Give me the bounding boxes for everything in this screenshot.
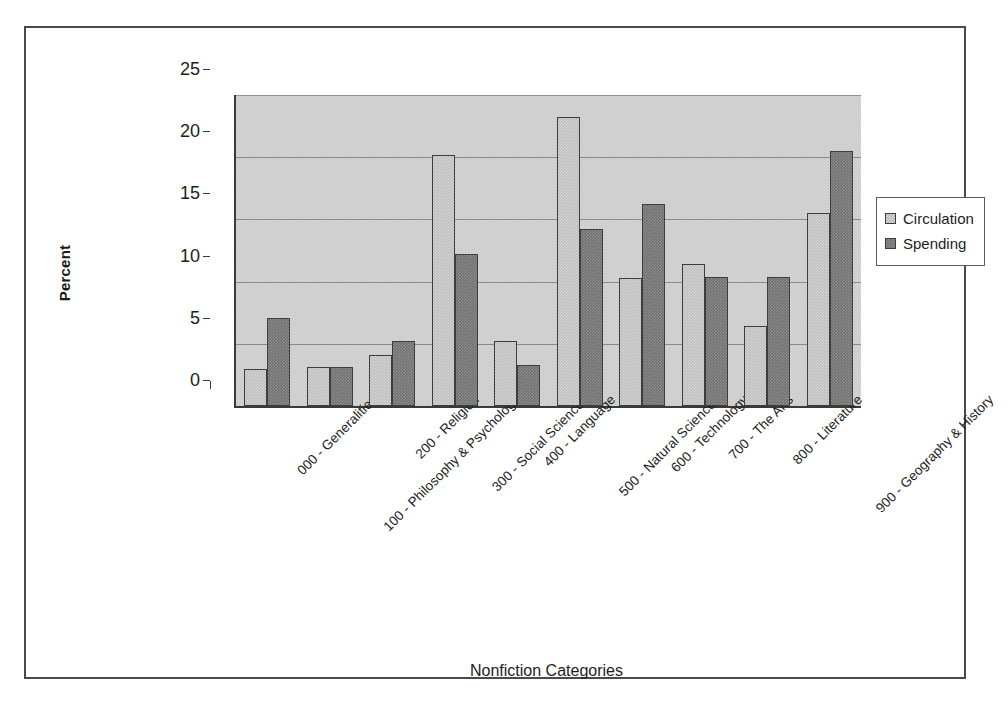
bar-circulation[interactable] <box>307 367 330 406</box>
bar-spending[interactable] <box>705 277 728 406</box>
y-tick-label-20: 20 <box>158 122 200 140</box>
bar-circulation[interactable] <box>682 264 705 406</box>
legend-item-spending[interactable]: Spending <box>885 231 974 256</box>
y-tick-mark-15 <box>203 193 210 194</box>
legend-item-circulation[interactable]: Circulation <box>885 206 974 231</box>
x-axis-label-9: 900 - Geography & History <box>873 392 997 516</box>
bar-circulation[interactable] <box>432 155 455 406</box>
bar-group <box>807 95 853 406</box>
legend-label: Spending <box>903 236 966 252</box>
bar-group <box>494 95 540 406</box>
bar-spending[interactable] <box>642 204 665 406</box>
chart-frame: Percent 2520151050 000 - Generalities100… <box>24 26 966 679</box>
bar-circulation[interactable] <box>244 369 267 406</box>
y-tick-label-5: 5 <box>158 309 200 327</box>
bar-spending[interactable] <box>330 367 353 406</box>
bar-group <box>244 95 290 406</box>
y-tick-label-25: 25 <box>158 60 200 78</box>
bar-spending[interactable] <box>267 318 290 406</box>
bar-spending[interactable] <box>517 365 540 406</box>
bar-group <box>307 95 353 406</box>
bar-spending[interactable] <box>830 151 853 406</box>
bar-group <box>744 95 790 406</box>
bar-spending[interactable] <box>767 277 790 406</box>
legend-swatch-icon <box>885 238 896 249</box>
plot-area <box>234 95 861 408</box>
bar-circulation[interactable] <box>494 341 517 406</box>
y-tick-label-10: 10 <box>158 247 200 265</box>
bar-spending[interactable] <box>392 341 415 406</box>
y-axis-title: Percent <box>56 208 82 338</box>
bar-circulation[interactable] <box>619 278 642 406</box>
bar-spending[interactable] <box>580 229 603 406</box>
legend-swatch-icon <box>885 213 896 224</box>
bar-circulation[interactable] <box>807 213 830 406</box>
bar-group <box>619 95 665 406</box>
bar-circulation[interactable] <box>744 326 767 406</box>
bar-circulation[interactable] <box>369 355 392 406</box>
y-tick-mark-10 <box>203 256 210 257</box>
bar-group <box>557 95 603 406</box>
y-tick-label-0: 0 <box>158 371 200 389</box>
y-tick-mark-5 <box>203 318 210 319</box>
x-tick-mark <box>210 381 211 389</box>
y-tick-mark-20 <box>203 131 210 132</box>
bar-group <box>432 95 478 406</box>
bar-spending[interactable] <box>455 254 478 406</box>
y-tick-mark-0 <box>203 380 210 381</box>
y-tick-label-15: 15 <box>158 184 200 202</box>
chart-legend: CirculationSpending <box>876 197 985 266</box>
legend-label: Circulation <box>903 211 974 227</box>
x-axis-title: Nonfiction Categories <box>234 662 859 680</box>
bar-circulation[interactable] <box>557 117 580 406</box>
bar-group <box>369 95 415 406</box>
y-tick-mark-25 <box>203 69 210 70</box>
bar-group <box>682 95 728 406</box>
